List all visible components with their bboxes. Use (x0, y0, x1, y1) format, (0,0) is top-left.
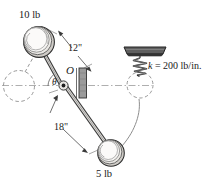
sphere-5lb (98, 140, 125, 167)
mechanics-figure: 10 lb 5 lb 12" 18" O θ k = 200 lb/in. (0, 0, 208, 183)
ghost-sphere-right (127, 72, 153, 98)
pivot-bearing (59, 81, 68, 90)
spring-support-plate (124, 47, 166, 56)
figure-canvas (0, 0, 208, 183)
label-dimension-12in: 12" (68, 43, 82, 53)
label-weight-5lb: 5 lb (96, 169, 112, 180)
sphere-10lb (23, 26, 54, 57)
ghost-arm-upper (25, 56, 34, 72)
swing-arc (122, 99, 139, 146)
ghost-sphere-left (4, 71, 35, 102)
spring-equals: = (152, 60, 163, 71)
pivot-support-bracket (77, 68, 87, 98)
label-angle-theta: θ (52, 78, 57, 88)
label-weight-10lb: 10 lb (19, 10, 40, 21)
label-pivot-O: O (66, 65, 74, 76)
label-spring-stiffness: k = 200 lb/in. (148, 61, 201, 71)
coil-spring (134, 56, 147, 77)
spring-value: 200 lb/in. (163, 60, 201, 71)
label-dimension-18in: 18" (54, 122, 68, 132)
